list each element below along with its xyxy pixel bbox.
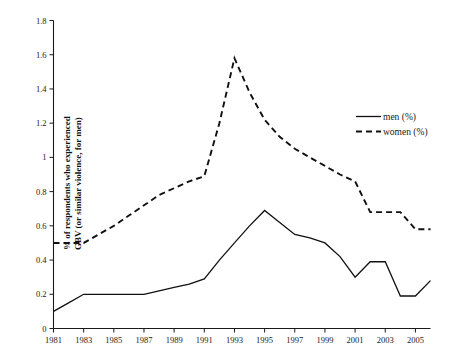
x-tick-label: 1999 (316, 335, 333, 345)
figure-caption (8, 344, 338, 356)
legend-label-men: men (%) (383, 112, 416, 123)
x-tick-label: 1995 (256, 335, 273, 345)
x-tick-label: 1983 (75, 335, 92, 345)
y-tick-label: 1 (42, 152, 46, 162)
x-tick-label: 1989 (166, 335, 183, 345)
legend-label-women: women (%) (383, 127, 428, 138)
y-tick-label: 1.6 (36, 50, 47, 60)
y-tick-label: 1.2 (36, 118, 47, 128)
y-tick-label: 1.8 (36, 16, 47, 26)
x-tick-label: 2001 (347, 335, 364, 345)
y-tick-label: 0.8 (36, 187, 47, 197)
x-tick-label: 1987 (135, 335, 152, 345)
x-tick-label: 1991 (196, 335, 213, 345)
chart-container: 00.20.40.60.811.21.41.61.8 1981198319851… (0, 0, 451, 356)
x-tick-label: 2005 (407, 335, 424, 345)
y-tick-label: 1.4 (36, 84, 47, 94)
gbv-line-chart: 00.20.40.60.811.21.41.61.8 1981198319851… (0, 0, 451, 356)
y-tick-label: 0.6 (36, 221, 47, 231)
x-tick-label: 1997 (286, 335, 303, 345)
x-tick-label: 1985 (105, 335, 122, 345)
y-tick-label: 0 (42, 324, 46, 334)
y-tick-label: 0.4 (36, 255, 47, 265)
x-tick-label: 1993 (226, 335, 243, 345)
x-tick-label: 1981 (45, 335, 62, 345)
x-tick-label: 2003 (377, 335, 394, 345)
y-axis-title-line-1: % of respondents who experienced (62, 116, 72, 250)
y-axis-title-line-2: GBV (or similar violence, for men) (73, 117, 83, 250)
y-axis-title: % of respondents who experienced GBV (or… (62, 116, 83, 250)
y-tick-label: 0.2 (36, 289, 47, 299)
